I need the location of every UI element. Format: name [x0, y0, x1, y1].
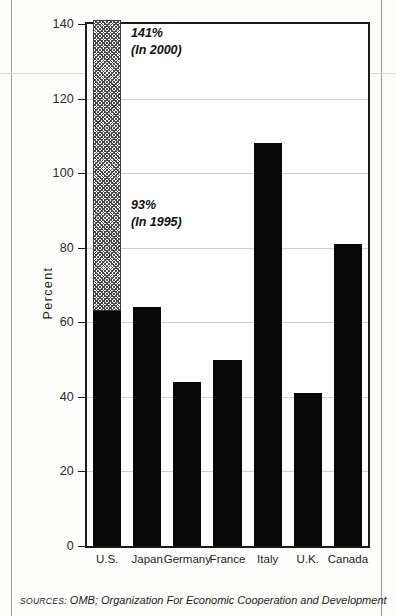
bar-segment-solid: [334, 244, 362, 546]
y-tick-label: 20: [34, 464, 74, 478]
bar-segment-solid: [254, 143, 282, 546]
bar-japan[interactable]: [133, 24, 161, 546]
bar-segment-solid: [93, 311, 121, 546]
plot-frame: [85, 22, 370, 548]
bar-segment-solid: [294, 393, 322, 546]
x-tick-label-italy: Italy: [257, 553, 278, 565]
bar-segment-solid: [173, 382, 201, 546]
x-tick-label-france: France: [210, 553, 246, 565]
bar-segment-solid: [133, 307, 161, 546]
y-tick-label: 100: [34, 166, 74, 180]
y-tick-mark: [78, 24, 85, 25]
x-tick-label-u-k: U.K.: [297, 553, 319, 565]
annotation-141-percent-in-2000: 141% (In 2000): [131, 25, 182, 59]
y-tick-mark: [78, 471, 85, 472]
source-text: OMB; Organization For Economic Cooperati…: [70, 594, 387, 606]
x-tick-label-canada: Canada: [328, 553, 368, 565]
annotation-93-percent-in-1995: 93% (In 1995): [131, 197, 182, 231]
x-tick-label-u-s: U.S.: [96, 553, 118, 565]
y-tick-mark: [78, 322, 85, 323]
y-tick-label: 40: [34, 390, 74, 404]
bar-canada[interactable]: [334, 24, 362, 546]
y-tick-mark: [78, 397, 85, 398]
source-line: SOURCES: OMB; Organization For Economic …: [20, 594, 387, 606]
y-tick-label: 0: [34, 539, 74, 553]
y-axis-title: Percent: [41, 233, 55, 353]
bar-germany[interactable]: [173, 24, 201, 546]
y-tick-label: 140: [34, 17, 74, 31]
x-tick-label-japan: Japan: [132, 553, 163, 565]
y-tick-mark: [78, 248, 85, 249]
bar-chart-figure: Percent 020406080100120140 141% (In 2000…: [0, 0, 396, 616]
plot-area: [87, 24, 368, 546]
bar-u-k[interactable]: [294, 24, 322, 546]
y-tick-mark: [78, 546, 85, 547]
bar-segment-hatched: [93, 20, 121, 311]
x-tick-label-germany: Germany: [164, 553, 211, 565]
bar-italy[interactable]: [254, 24, 282, 546]
bar-segment-solid: [213, 360, 241, 546]
y-tick-mark: [78, 99, 85, 100]
y-tick-label: 120: [34, 92, 74, 106]
bar-france[interactable]: [213, 24, 241, 546]
source-prefix-label: SOURCES:: [20, 596, 67, 606]
y-tick-mark: [78, 173, 85, 174]
bar-u-s[interactable]: [93, 24, 121, 546]
